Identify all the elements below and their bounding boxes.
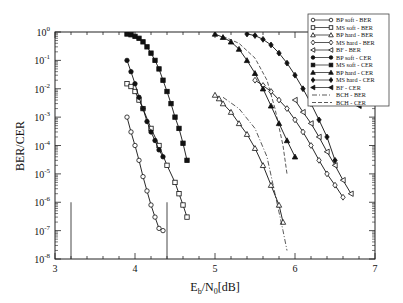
y-tick-label: 100 bbox=[37, 25, 51, 38]
series-bch-cer bbox=[223, 36, 287, 174]
legend: BP soft - BERMS soft - BERBP hard - BERM… bbox=[308, 14, 389, 106]
y-tick-label: 10-2 bbox=[34, 82, 50, 95]
series-bp-soft-ber bbox=[125, 115, 165, 233]
legend-label: BP soft - CER bbox=[336, 54, 372, 61]
series-bp-hard-ber bbox=[212, 92, 285, 224]
y-tick-label: 10-5 bbox=[34, 167, 50, 180]
y-tick-label: 10-3 bbox=[34, 110, 50, 123]
y-tick-label: 10-8 bbox=[34, 252, 50, 265]
legend-label: BP hard - CER bbox=[336, 69, 374, 76]
legend-label: BCH - CER bbox=[336, 99, 367, 106]
y-tick-label: 10-4 bbox=[34, 139, 50, 152]
y-tick-labels: 10010-110-210-310-410-510-610-710-8 bbox=[34, 25, 50, 265]
legend-label: BF - CER bbox=[336, 84, 362, 91]
x-tick-label: 4 bbox=[133, 263, 138, 274]
series-bf-ber bbox=[292, 97, 353, 196]
legend-label: MS hard - CER bbox=[336, 76, 376, 83]
x-tick-label: 6 bbox=[293, 263, 298, 274]
ber-cer-chart: 10010-110-210-310-410-510-610-710-8 3456… bbox=[0, 0, 403, 303]
x-axis-label: Eb/N0[dB] bbox=[190, 280, 239, 296]
legend-label: BP soft - BER bbox=[336, 16, 372, 23]
series-bp-hard-cer bbox=[212, 31, 297, 159]
x-tick-labels: 34567 bbox=[53, 263, 378, 274]
y-axis-label: BER/CER bbox=[13, 121, 27, 171]
y-tick-label: 10-7 bbox=[34, 224, 50, 237]
legend-label: BF - BER bbox=[336, 46, 362, 53]
x-tick-label: 7 bbox=[373, 263, 378, 274]
x-tick-label: 3 bbox=[53, 263, 58, 274]
legend-label: MS soft - BER bbox=[336, 24, 374, 31]
legend-label: MS hard - BER bbox=[336, 39, 376, 46]
y-tick-label: 10-1 bbox=[34, 53, 50, 66]
y-tick-label: 10-6 bbox=[34, 195, 50, 208]
legend-label: BCH - BER bbox=[336, 91, 367, 98]
legend-label: MS soft - CER bbox=[336, 61, 374, 68]
x-tick-label: 5 bbox=[213, 263, 218, 274]
legend-label: BP hard - BER bbox=[336, 31, 374, 38]
